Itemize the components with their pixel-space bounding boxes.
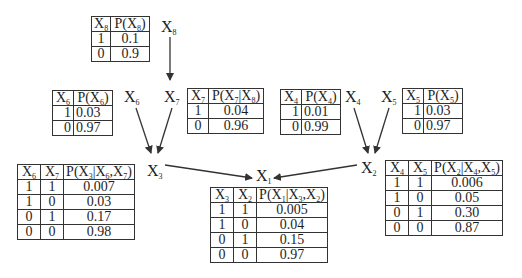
node-x5: X5: [381, 89, 397, 105]
table-header: X4: [281, 90, 302, 105]
table-header: X7: [41, 165, 64, 180]
table-row: 0 0.97: [53, 121, 113, 136]
edge-x5-x2: [375, 108, 389, 153]
table-row: 0 1 0.17: [18, 210, 135, 225]
cpt-table-x2: X4 X5 P(X2|X4,X5) 1 1 0.006 1 0 0.05 0 1…: [385, 160, 503, 236]
table-row: 1 0.03: [403, 104, 463, 119]
table-header: P(X3|X6,X7): [64, 165, 135, 180]
table-row: 1 1 0.005: [211, 203, 328, 218]
table-header: P(X1|X3,X2): [257, 188, 328, 203]
edge-x7-x3: [158, 108, 172, 153]
table-header: X5: [403, 89, 424, 104]
table-row: 0 0 0.87: [386, 221, 503, 236]
table-row: 1 0.1: [92, 32, 150, 47]
table-row: 1 0 0.03: [18, 195, 135, 210]
table-header: X4: [386, 161, 409, 176]
table-row: 0 1 0.15: [211, 233, 328, 248]
table-row: 1 0 0.05: [386, 191, 503, 206]
table-header: X6: [18, 165, 41, 180]
table-header: P(X7|X8): [209, 89, 264, 104]
table-header: X2: [234, 188, 257, 203]
node-x7: X7: [164, 89, 180, 105]
table-header: P(X2|X4,X5): [432, 161, 503, 176]
cpt-table-x4: X4 P(X4) 1 0.01 0 0.99: [280, 89, 341, 135]
table-header: X5: [409, 161, 432, 176]
table-row: 0 0 0.97: [211, 248, 328, 263]
cpt-table-x6: X6 P(X6) 1 0.03 0 0.97: [52, 90, 113, 136]
table-header: X8: [92, 17, 111, 32]
cpt-table-x7: X7 P(X7|X8) 1 0.04 0 0.96: [187, 88, 264, 134]
table-row: 0 0 0.98: [18, 225, 135, 240]
edge-x6-x3: [136, 108, 151, 153]
table-header: P(X4): [302, 90, 341, 105]
table-row: 1 0.01: [281, 105, 341, 120]
table-row: 0 0.9: [92, 47, 150, 62]
node-x8: X8: [161, 19, 177, 35]
table-header: X6: [53, 91, 74, 106]
table-row: 0 1 0.30: [386, 206, 503, 221]
node-x4: X4: [345, 89, 361, 105]
cpt-table-x1: X3 X2 P(X1|X3,X2) 1 1 0.005 1 0 0.04 0 1…: [210, 187, 328, 263]
cpt-table-x3: X6 X7 P(X3|X6,X7) 1 1 0.007 1 0 0.03 0 1…: [17, 164, 135, 240]
table-row: 1 1 0.006: [386, 176, 503, 191]
cpt-table-x5: X5 P(X5) 1 0.03 0 0.97: [402, 88, 463, 134]
edge-x3-x1: [165, 165, 252, 178]
table-row: 0 0.99: [281, 120, 341, 135]
edge-x4-x2: [354, 108, 368, 153]
table-row: 0 0.96: [188, 119, 264, 134]
table-header: P(X8): [111, 17, 150, 32]
table-row: 1 0.03: [53, 106, 113, 121]
table-header: P(X5): [424, 89, 463, 104]
table-header: X3: [211, 188, 234, 203]
edge-x2-x1: [274, 165, 357, 178]
node-x3: X3: [147, 163, 163, 179]
table-row: 1 1 0.007: [18, 180, 135, 195]
node-x2: X2: [361, 160, 377, 176]
table-row: 0 0.97: [403, 119, 463, 134]
node-x6: X6: [124, 89, 140, 105]
table-row: 1 0.04: [188, 104, 264, 119]
cpt-table-x8: X8 P(X8) 1 0.1 0 0.9: [91, 16, 150, 62]
node-x1: X1: [256, 168, 272, 184]
table-row: 1 0 0.04: [211, 218, 328, 233]
table-header: X7: [188, 89, 209, 104]
table-header: P(X6): [74, 91, 113, 106]
